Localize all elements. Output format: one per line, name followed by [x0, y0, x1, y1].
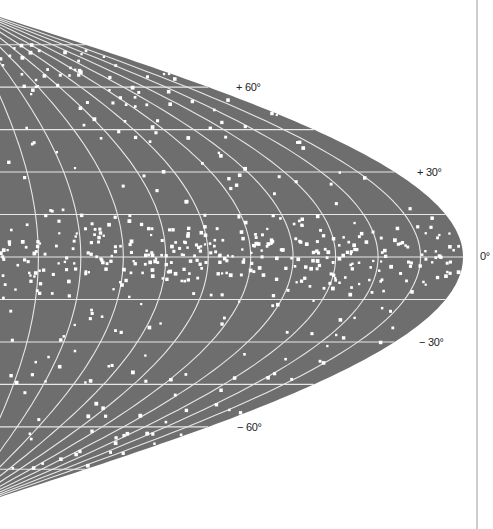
- lat-label-zero: 0°: [480, 250, 490, 262]
- sky-map: [0, 0, 493, 529]
- lat-label-plus-60: + 60°: [236, 81, 261, 93]
- lat-label-minus-60: − 60°: [237, 421, 262, 433]
- lat-label-plus-30: + 30°: [417, 166, 442, 178]
- lat-label-minus-30: − 30°: [419, 336, 444, 348]
